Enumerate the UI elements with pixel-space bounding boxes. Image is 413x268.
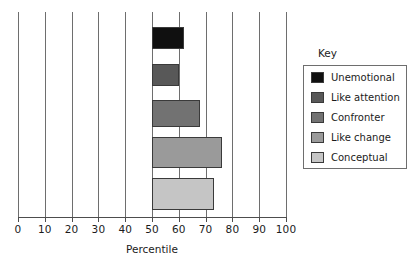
x-tick-label-10: 10 [30,223,60,235]
legend-swatch-like-change [311,132,324,143]
x-tick-label-90: 90 [244,223,274,235]
x-tick-label-100: 100 [271,223,301,235]
legend-item-confronter[interactable]: Confronter [304,107,408,127]
gridline-30 [98,12,99,217]
x-tick-label-20: 20 [57,223,87,235]
x-tick-label-50: 50 [137,223,167,235]
x-axis-label: Percentile [0,243,304,255]
legend-swatch-confronter [311,112,324,123]
x-tick-30 [98,217,99,222]
x-tick-label-70: 70 [191,223,221,235]
legend-item-like-change[interactable]: Like change [304,127,408,147]
x-tick-0 [18,217,19,222]
legend-item-like-attention[interactable]: Like attention [304,87,408,107]
legend-label-confronter: Confronter [331,112,385,123]
legend-swatch-unemotional [311,72,324,83]
x-tick-50 [152,217,153,222]
gridline-90 [259,12,260,217]
gridline-10 [45,12,46,217]
legend-label-conceptual: Conceptual [331,152,388,163]
x-tick-label-60: 60 [164,223,194,235]
bar-chart: 0102030405060708090100 Percentile Key Un… [0,0,413,268]
legend-label-unemotional: Unemotional [331,72,395,83]
legend-label-like-attention: Like attention [331,92,400,103]
x-tick-60 [179,217,180,222]
legend-item-unemotional[interactable]: Unemotional [304,67,408,87]
gridline-0 [18,12,19,217]
legend-swatch-like-attention [311,92,324,103]
bar-unemotional [152,27,184,49]
x-tick-label-0: 0 [3,223,33,235]
x-tick-40 [125,217,126,222]
legend-item-conceptual[interactable]: Conceptual [304,147,408,167]
x-tick-label-40: 40 [110,223,140,235]
x-tick-70 [206,217,207,222]
legend-swatch-conceptual [311,152,324,163]
legend-box: Unemotional Like attention Confronter Li… [303,65,407,169]
x-tick-20 [72,217,73,222]
bar-like-change [152,137,222,168]
x-tick-label-30: 30 [83,223,113,235]
bar-like-attention [152,64,179,86]
x-tick-80 [232,217,233,222]
gridline-20 [72,12,73,217]
x-tick-90 [259,217,260,222]
gridline-80 [232,12,233,217]
gridline-40 [125,12,126,217]
gridline-100 [286,12,287,217]
bar-conceptual [152,178,214,210]
x-tick-10 [45,217,46,222]
x-tick-label-80: 80 [217,223,247,235]
x-tick-100 [286,217,287,222]
legend-label-like-change: Like change [331,132,391,143]
legend-title: Key [318,47,337,59]
bar-confronter [152,100,200,127]
